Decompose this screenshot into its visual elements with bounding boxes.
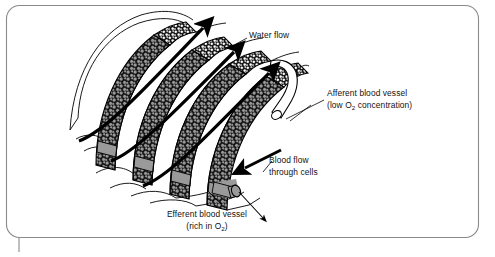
label-efferent-line1: Efferent blood vessel xyxy=(167,209,247,219)
label-efferent-line2: (rich in O2) xyxy=(186,221,227,231)
label-efferent-blood-vessel: Efferent blood vessel (rich in O2) xyxy=(135,209,279,234)
label-blood-flow-line1: Blood flow xyxy=(269,155,309,165)
label-afferent-blood-vessel: Afferent blood vessel (low O2 concentrat… xyxy=(327,88,412,113)
label-afferent-line2: (low O2 concentration) xyxy=(327,100,412,110)
label-afferent-line1: Afferent blood vessel xyxy=(327,88,407,98)
label-water-flow: Water flow xyxy=(249,30,289,42)
label-blood-flow-through-cells: Blood flow through cells xyxy=(269,155,318,178)
gill-diagram-figure: Water flow Afferent blood vessel (low O2… xyxy=(0,0,495,257)
label-blood-flow-line2: through cells xyxy=(269,167,318,177)
